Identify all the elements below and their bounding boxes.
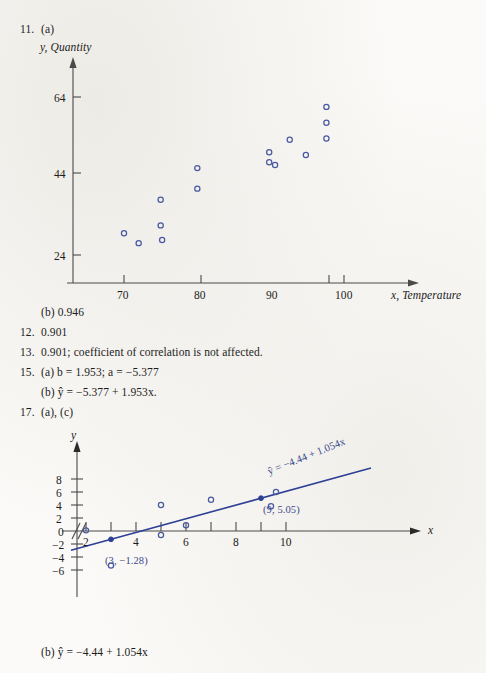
item-15-part-b: (b) ŷ = −5.377 + 1.953x. <box>41 385 157 399</box>
scatter-point <box>287 137 292 142</box>
item-number-15: 15. <box>20 365 35 379</box>
scatter-point <box>267 150 272 155</box>
chart2-x-tick-10: 10 <box>280 535 292 549</box>
answer-key-page: 11. (a) 64 44 24 <box>0 0 486 673</box>
scatter-point <box>158 223 163 228</box>
chart2-x-tick-2: 2 <box>83 535 89 549</box>
chart1-data-points <box>0 0 486 330</box>
scatter-point <box>195 166 200 171</box>
highlighted-point <box>109 537 114 542</box>
chart2-x-tick-6: 6 <box>183 535 189 549</box>
x-axis-arrow-icon <box>410 527 421 534</box>
chart2-y-axis <box>71 441 83 597</box>
highlighted-point <box>259 496 264 501</box>
chart2-x-tick-4: 4 <box>133 535 139 549</box>
scatter-point <box>324 104 329 109</box>
y-axis-arrow-icon <box>73 441 80 452</box>
scatter-point <box>158 532 163 537</box>
annotation-point-3: (3, −1.28) <box>105 554 148 567</box>
scatter-point <box>324 120 329 125</box>
chart2-x-tick-8: 8 <box>233 535 239 549</box>
scatter-point <box>324 136 329 141</box>
item-17-part-b: (b) ŷ = −4.44 + 1.054x <box>41 645 148 659</box>
scatter-point <box>195 186 200 191</box>
item-number-12: 12. <box>20 325 35 339</box>
scatter-point <box>272 162 277 167</box>
chart2-y-axis-label: y <box>71 428 76 442</box>
chart2-x-axis <box>62 522 421 539</box>
item-11-part-b: (b) 0.946 <box>41 305 84 319</box>
item-12-value: 0.901 <box>41 325 67 339</box>
scatter-point <box>136 241 141 246</box>
chart-scatter-temperature: 64 44 24 70 80 90 100 y, Quantity x, Tem… <box>0 0 486 330</box>
chart2-y-tick-neg6: −6 <box>52 564 64 578</box>
scatter-point <box>158 502 163 507</box>
scatter-point <box>158 197 163 202</box>
regression-fit-line <box>71 468 371 550</box>
chart-regression-line: 8 6 4 2 0 −2 −4 −6 2 4 6 8 10 y x (3, −1… <box>0 415 486 615</box>
scatter-point <box>208 497 213 502</box>
scatter-point <box>303 152 308 157</box>
item-15-part-a: (a) b = 1.953; a = −5.377 <box>41 365 159 379</box>
item-number-13: 13. <box>20 345 35 359</box>
scatter-point <box>121 231 126 236</box>
scatter-point <box>267 160 272 165</box>
item-13-value: 0.901; coefficient of correlation is not… <box>41 345 263 359</box>
annotation-point-9: (9, 5.05) <box>263 503 300 516</box>
scatter-point <box>160 237 165 242</box>
chart2-x-axis-label: x <box>428 523 433 537</box>
